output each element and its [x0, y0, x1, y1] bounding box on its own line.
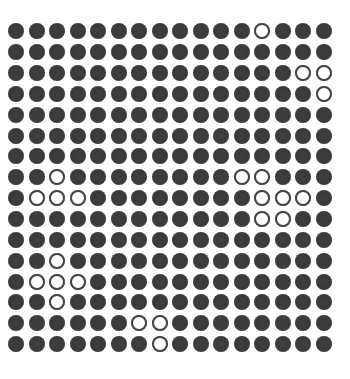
- filled-circle-icon: [213, 86, 229, 102]
- filled-circle-icon: [90, 107, 106, 123]
- filled-circle-icon: [152, 86, 168, 102]
- grid-cell: [293, 188, 314, 209]
- filled-circle-icon: [29, 65, 45, 81]
- grid-cell: [150, 292, 171, 313]
- filled-circle-icon: [49, 128, 65, 144]
- filled-circle-icon: [316, 148, 332, 164]
- grid-cell: [129, 42, 150, 63]
- filled-circle-icon: [275, 232, 291, 248]
- grid-cell: [273, 63, 294, 84]
- filled-circle-icon: [111, 44, 127, 60]
- filled-circle-icon: [111, 336, 127, 352]
- filled-circle-icon: [49, 23, 65, 39]
- filled-circle-icon: [295, 315, 311, 331]
- grid-cell: [314, 146, 335, 167]
- filled-circle-icon: [213, 44, 229, 60]
- grid-cell: [27, 146, 48, 167]
- grid-cell: [191, 250, 212, 271]
- filled-circle-icon: [213, 232, 229, 248]
- grid-cell: [47, 63, 68, 84]
- filled-circle-icon: [49, 232, 65, 248]
- filled-circle-icon: [49, 211, 65, 227]
- filled-circle-icon: [254, 128, 270, 144]
- grid-cell: [129, 209, 150, 230]
- filled-circle-icon: [254, 86, 270, 102]
- filled-circle-icon: [8, 253, 24, 269]
- filled-circle-icon: [295, 294, 311, 310]
- filled-circle-icon: [90, 315, 106, 331]
- grid-cell: [293, 146, 314, 167]
- grid-cell: [314, 229, 335, 250]
- filled-circle-icon: [316, 274, 332, 290]
- filled-circle-icon: [131, 253, 147, 269]
- filled-circle-icon: [234, 315, 250, 331]
- grid-cell: [68, 292, 89, 313]
- filled-circle-icon: [254, 65, 270, 81]
- grid-cell: [170, 271, 191, 292]
- grid-cell: [293, 271, 314, 292]
- open-circle-icon: [234, 169, 250, 185]
- filled-circle-icon: [234, 65, 250, 81]
- open-circle-icon: [254, 190, 270, 206]
- grid-cell: [68, 313, 89, 334]
- filled-circle-icon: [131, 128, 147, 144]
- grid-cell: [232, 167, 253, 188]
- grid-cell: [191, 313, 212, 334]
- filled-circle-icon: [316, 253, 332, 269]
- grid-cell: [27, 21, 48, 42]
- filled-circle-icon: [254, 107, 270, 123]
- filled-circle-icon: [131, 211, 147, 227]
- grid-cell: [191, 209, 212, 230]
- grid-cell: [191, 229, 212, 250]
- filled-circle-icon: [254, 232, 270, 248]
- filled-circle-icon: [90, 148, 106, 164]
- grid-cell: [314, 21, 335, 42]
- grid-cell: [88, 313, 109, 334]
- grid-cell: [170, 334, 191, 355]
- filled-circle-icon: [275, 315, 291, 331]
- filled-circle-icon: [111, 86, 127, 102]
- grid-cell: [6, 167, 27, 188]
- grid-cell: [6, 250, 27, 271]
- filled-circle-icon: [316, 232, 332, 248]
- filled-circle-icon: [70, 23, 86, 39]
- filled-circle-icon: [254, 315, 270, 331]
- grid-cell: [273, 84, 294, 105]
- filled-circle-icon: [172, 232, 188, 248]
- filled-circle-icon: [172, 169, 188, 185]
- filled-circle-icon: [131, 232, 147, 248]
- grid-cell: [191, 271, 212, 292]
- grid-cell: [47, 229, 68, 250]
- filled-circle-icon: [172, 274, 188, 290]
- grid-cell: [314, 63, 335, 84]
- grid-cell: [27, 188, 48, 209]
- open-circle-icon: [254, 211, 270, 227]
- grid-cell: [129, 125, 150, 146]
- grid-cell: [150, 84, 171, 105]
- filled-circle-icon: [49, 336, 65, 352]
- grid-cell: [27, 104, 48, 125]
- grid-cell: [293, 42, 314, 63]
- filled-circle-icon: [131, 190, 147, 206]
- filled-circle-icon: [213, 23, 229, 39]
- grid-cell: [88, 250, 109, 271]
- grid-cell: [273, 334, 294, 355]
- filled-circle-icon: [90, 336, 106, 352]
- grid-cell: [47, 188, 68, 209]
- open-circle-icon: [131, 315, 147, 331]
- grid-cell: [273, 188, 294, 209]
- grid-cell: [314, 209, 335, 230]
- open-circle-icon: [275, 190, 291, 206]
- grid-cell: [191, 167, 212, 188]
- open-circle-icon: [316, 86, 332, 102]
- filled-circle-icon: [111, 294, 127, 310]
- filled-circle-icon: [193, 44, 209, 60]
- grid-cell: [232, 63, 253, 84]
- grid-cell: [68, 229, 89, 250]
- grid-cell: [170, 63, 191, 84]
- filled-circle-icon: [295, 253, 311, 269]
- grid-cell: [129, 271, 150, 292]
- filled-circle-icon: [152, 44, 168, 60]
- filled-circle-icon: [131, 336, 147, 352]
- filled-circle-icon: [90, 274, 106, 290]
